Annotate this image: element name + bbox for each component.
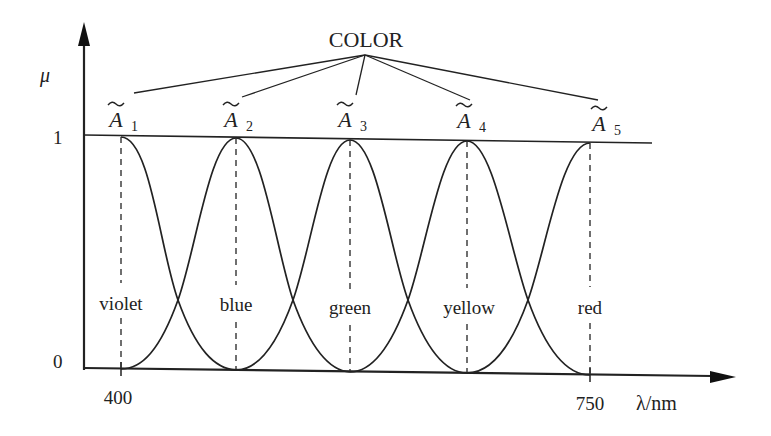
- y-axis: [78, 22, 90, 370]
- color-label-blue: blue: [220, 294, 253, 315]
- svg-text:A: A: [222, 107, 238, 132]
- tilde-icon: [223, 102, 239, 106]
- tilde-icon: [591, 106, 607, 110]
- x-axis-arrow-icon: [710, 371, 736, 383]
- x-tick-750: 750: [576, 393, 605, 414]
- tilde-icon: [108, 102, 124, 106]
- membership-curves: [121, 137, 590, 375]
- y-tick-1: 1: [53, 127, 63, 148]
- fuzzy-color-diagram: COLOR A 1 A 2 A 3 A 4 A 5 violet blue gr…: [0, 0, 771, 436]
- svg-text:3: 3: [360, 119, 367, 134]
- set-label-a4: A 4: [455, 103, 486, 135]
- svg-text:5: 5: [614, 123, 621, 138]
- tilde-icon: [456, 103, 472, 107]
- x-axis: [84, 362, 736, 383]
- diagram-title: COLOR: [329, 27, 404, 52]
- svg-text:A: A: [336, 107, 352, 132]
- svg-text:4: 4: [479, 120, 486, 135]
- x-axis-label: λ/nm: [636, 392, 677, 414]
- curve-a5: [467, 143, 590, 373]
- set-label-a5: A 5: [590, 106, 621, 138]
- set-label-a2: A 2: [222, 102, 253, 134]
- y-axis-label: μ: [39, 64, 50, 87]
- curve-a3: [236, 140, 467, 373]
- color-tree-connectors: [134, 55, 598, 100]
- y-tick-0: 0: [53, 351, 63, 372]
- curve-a4: [350, 141, 590, 375]
- svg-text:A: A: [455, 108, 471, 133]
- color-label-violet: violet: [99, 293, 143, 314]
- svg-text:1: 1: [131, 119, 138, 134]
- peak-dashed-lines: [121, 137, 590, 375]
- color-label-yellow: yellow: [443, 297, 495, 318]
- set-label-a1: A 1: [107, 102, 138, 134]
- set-label-a3: A 3: [336, 102, 367, 134]
- tilde-icon: [337, 102, 353, 106]
- svg-text:A: A: [590, 111, 606, 136]
- color-label-green: green: [329, 297, 372, 318]
- svg-text:2: 2: [246, 119, 253, 134]
- curve-a1: [121, 137, 236, 370]
- x-tick-400: 400: [104, 387, 133, 408]
- membership-one-line: [84, 135, 652, 143]
- color-label-red: red: [578, 297, 603, 318]
- svg-text:A: A: [107, 107, 123, 132]
- y-axis-arrow-icon: [78, 22, 90, 46]
